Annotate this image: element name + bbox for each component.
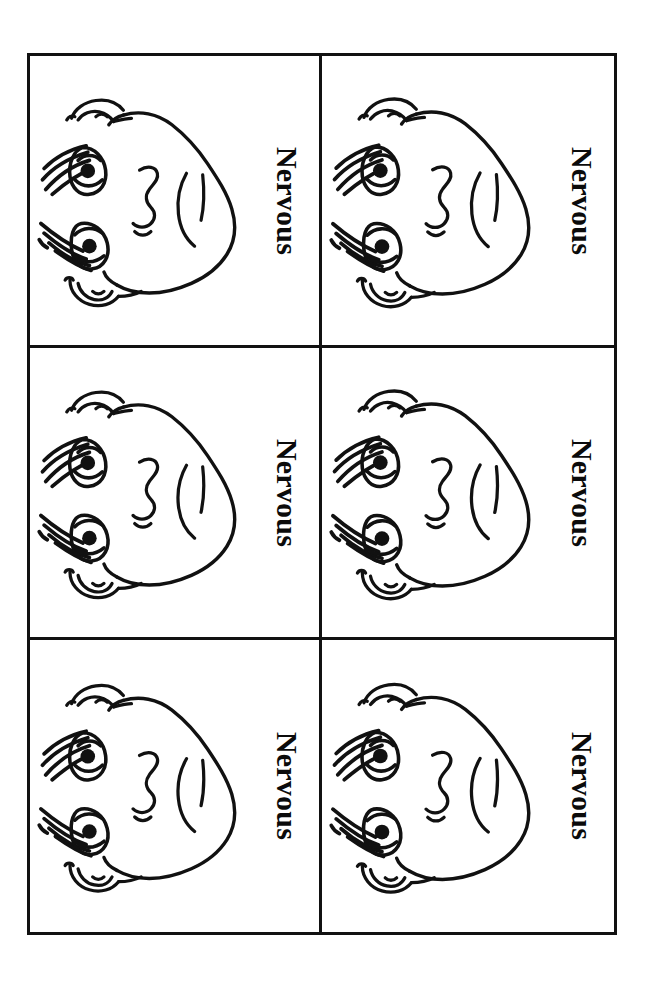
eye-icon-upper <box>69 439 105 486</box>
ear-icon-top <box>67 685 132 706</box>
mouth-icon <box>471 173 497 247</box>
eye-icon-upper <box>362 732 399 780</box>
face-illustration <box>328 649 573 923</box>
pupil-upper <box>80 455 95 470</box>
nose-icon <box>133 167 158 235</box>
nervous-face-drawing <box>328 649 573 923</box>
head-outline <box>104 698 235 878</box>
eye-icon-upper <box>362 147 399 195</box>
pupil-lower <box>374 824 389 839</box>
nervous-face-drawing <box>36 649 279 923</box>
eye-icon-upper <box>69 733 105 780</box>
pupil-upper <box>373 163 388 178</box>
nose-icon <box>133 752 158 820</box>
nervous-face-drawing <box>36 65 279 337</box>
nose-icon <box>426 752 451 821</box>
face-illustration <box>36 649 279 923</box>
flashcard-row-3-col-2[interactable]: Nervous <box>322 640 614 932</box>
pupil-lower <box>82 531 97 546</box>
pupil-upper <box>373 455 388 470</box>
eye-icon-upper <box>362 439 399 487</box>
nervous-face-drawing <box>36 357 279 629</box>
pupil-upper <box>373 748 388 763</box>
pupil-lower <box>374 531 389 546</box>
flashcard-row-1-col-2[interactable]: Nervous <box>322 56 614 348</box>
face-illustration <box>328 65 573 337</box>
head-outline <box>397 404 529 586</box>
ear-icon-top <box>67 100 132 121</box>
pupil-lower <box>374 239 389 254</box>
face-illustration <box>328 357 573 629</box>
mouth-icon <box>178 758 204 831</box>
mouth-icon <box>178 465 204 538</box>
mouth-icon <box>178 173 204 246</box>
face-illustration <box>36 65 279 337</box>
flashcard-row-3-col-1[interactable]: Nervous <box>30 640 322 932</box>
pupil-upper <box>80 163 95 178</box>
flashcard-inner: Nervous <box>30 348 319 637</box>
head-outline <box>397 112 529 294</box>
nose-icon <box>426 167 451 236</box>
flashcard-row-1-col-1[interactable]: Nervous <box>30 56 322 348</box>
flashcard-sheet: Nervous <box>27 53 617 935</box>
mouth-icon <box>471 758 497 832</box>
head-outline <box>104 113 235 293</box>
ear-icon-top <box>359 99 424 121</box>
nervous-face-drawing <box>328 65 573 337</box>
flashcard-inner: Nervous <box>322 640 614 932</box>
pupil-upper <box>80 749 95 764</box>
face-illustration <box>36 357 279 629</box>
eye-icon-upper <box>69 147 105 194</box>
ear-icon-top <box>67 392 132 413</box>
flashcard-inner: Nervous <box>30 56 319 345</box>
mouth-icon <box>471 465 497 539</box>
nose-icon <box>133 459 158 527</box>
nervous-face-drawing <box>328 357 573 629</box>
head-outline <box>397 697 529 879</box>
flashcard-row-2-col-1[interactable]: Nervous <box>30 348 322 640</box>
flashcard-inner: Nervous <box>30 640 319 932</box>
flashcard-row-2-col-2[interactable]: Nervous <box>322 348 614 640</box>
pupil-lower <box>82 824 97 839</box>
head-outline <box>104 405 235 585</box>
nose-icon <box>426 459 451 528</box>
flashcard-inner: Nervous <box>322 56 614 345</box>
flashcard-inner: Nervous <box>322 348 614 637</box>
ear-icon-top <box>359 684 424 706</box>
ear-icon-top <box>359 391 424 413</box>
pupil-lower <box>82 239 97 254</box>
